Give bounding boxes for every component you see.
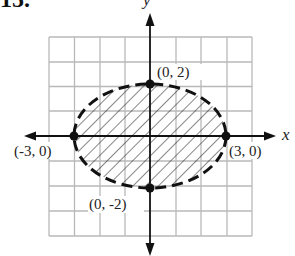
label-bottom-point: (0, -2) xyxy=(89,196,127,213)
label-right-point: (3, 0) xyxy=(229,143,262,160)
label-top-point: (0, 2) xyxy=(157,64,190,81)
arrow-down-icon xyxy=(146,243,155,256)
label-left-point: (-3, 0) xyxy=(14,143,52,160)
x-axis-label: x xyxy=(281,125,290,144)
graph: x y (0, 2) (-3, 0) (3, 0) (0, -2) xyxy=(0,0,295,256)
arrow-left-icon xyxy=(24,132,36,141)
arrow-right-icon xyxy=(264,132,276,141)
arrow-up-icon xyxy=(146,13,155,26)
point-bottom xyxy=(146,184,155,193)
point-left xyxy=(70,132,79,141)
point-top xyxy=(146,80,155,89)
y-axis-label: y xyxy=(141,0,151,9)
point-right xyxy=(222,132,231,141)
